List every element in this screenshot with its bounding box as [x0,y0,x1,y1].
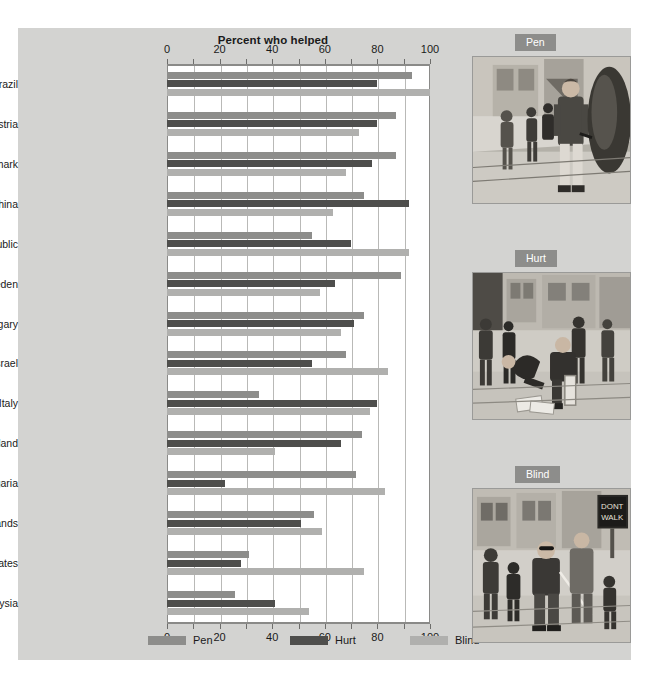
axis-tick [325,59,326,64]
x-tick-label: 40 [266,43,278,55]
axis-tick [299,59,300,64]
gridline [405,64,406,623]
bar-blind [167,169,346,176]
bar-hurt [167,280,335,287]
hurt-scene-icon [473,273,630,419]
bar-hurt [167,480,225,487]
gridline [247,64,248,623]
category-label: Amsterdam, Netherlands [0,517,18,529]
x-tick-label: 20 [213,43,225,55]
gridline [300,64,301,623]
axis-tick [430,59,431,64]
axis-tick [325,624,326,629]
category-label: Rio de Janeiro, Brazil [0,78,18,90]
bar-pen [167,591,235,598]
category-label: Vienna, Austria [0,118,18,130]
illustration-badge-pen: Pen [515,34,556,51]
bar-hurt [167,520,301,527]
axis-tick [220,59,221,64]
category-label: Prague, Czech Republic [0,238,18,250]
axis-tick [246,59,247,64]
bar-pen [167,471,356,478]
legend-swatch-hurt [290,636,328,645]
bar-pen [167,232,312,239]
legend-item-pen: Pen [148,634,213,646]
plot-area [167,64,430,623]
category-label: New York, United States [0,557,18,569]
legend-label-pen: Pen [193,634,213,646]
svg-text:DONT: DONT [601,502,624,511]
axis-tick [404,624,405,629]
axis-tick [246,624,247,629]
bar-pen [167,272,401,279]
bar-blind [167,249,409,256]
x-tick-label: 0 [164,43,170,55]
bar-blind [167,129,359,136]
axis-tick [167,59,168,64]
legend-swatch-pen [148,636,186,645]
illustration-column: Pen [458,28,631,660]
axis-tick [351,59,352,64]
gridline [326,64,327,623]
gridline [352,64,353,623]
bar-pen [167,431,362,438]
gridline [378,64,379,623]
bar-hurt [167,360,312,367]
illustration-image-hurt [472,272,631,420]
gridline [221,64,222,623]
bar-blind [167,568,364,575]
axis-tick [299,624,300,629]
category-label: Rome, Italy [0,397,18,409]
legend-item-hurt: Hurt [290,634,356,646]
category-label: Kuala Lumpur, Malaysia [0,597,18,609]
axis-tick [430,624,431,629]
bar-hurt [167,120,377,127]
bar-blind [167,488,385,495]
bar-chart: Percent who helped 020406080100 02040608… [18,28,473,660]
legend-swatch-blind [410,636,448,645]
gridline [273,64,274,623]
bar-blind [167,608,309,615]
axis-tick [272,59,273,64]
bar-hurt [167,80,377,87]
x-tick-label: 60 [319,43,331,55]
svg-text:WALK: WALK [601,513,624,522]
bar-blind [167,408,370,415]
category-label: Stockholm, Sweden [0,278,18,290]
bar-blind [167,329,341,336]
axis-tick [351,624,352,629]
bar-blind [167,89,430,96]
bar-pen [167,192,364,199]
bar-pen [167,152,396,159]
axis-top-line [167,64,430,66]
bar-blind [167,209,333,216]
category-label: Sofia, Bulgaria [0,477,18,489]
bar-hurt [167,240,351,247]
axis-tick [272,624,273,629]
axis-tick [377,624,378,629]
bar-pen [167,312,364,319]
bar-hurt [167,320,354,327]
bar-pen [167,391,259,398]
bar-hurt [167,160,372,167]
bar-blind [167,289,320,296]
bar-hurt [167,560,241,567]
legend-label-hurt: Hurt [335,634,356,646]
chart-screenshot: Percent who helped 020406080100 02040608… [0,0,649,675]
axis-tick [193,624,194,629]
illustration-badge-hurt: Hurt [515,250,557,267]
axis-tick [377,59,378,64]
bar-hurt [167,600,275,607]
pen-scene-icon [473,57,630,203]
chart-panel: Percent who helped 020406080100 02040608… [18,28,631,660]
illustration-badge-blind: Blind [515,466,560,483]
bar-hurt [167,440,341,447]
illustration-image-pen [472,56,631,204]
bar-pen [167,551,249,558]
bar-pen [167,511,314,518]
bar-pen [167,112,396,119]
illustration-image-blind: DONT WALK [472,488,631,643]
category-label: Bangkok, Thailand [0,437,18,449]
bar-hurt [167,400,377,407]
bar-hurt [167,200,409,207]
